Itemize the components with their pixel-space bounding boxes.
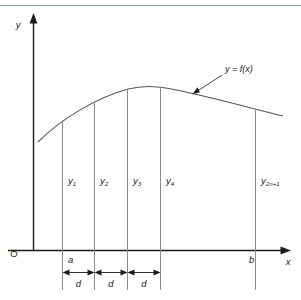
curve-leader-arrowhead <box>193 87 200 94</box>
curve-leader-line <box>196 75 222 92</box>
dimension-arrowhead-d2-right <box>121 270 128 276</box>
ordinate-label-y1: y1 <box>67 175 76 187</box>
ordinate-label-y2n1-sub: 2n+1 <box>265 180 280 187</box>
dimension-label-d3: d <box>141 278 147 289</box>
curve-equation-label: y = f(x) <box>224 64 253 74</box>
ordinate-label-y2: y2 <box>99 175 109 187</box>
x-tick-label-b: b <box>249 254 254 265</box>
dimension-arrowhead-d1-right <box>88 270 95 276</box>
dimension-label-d1: d <box>76 278 82 289</box>
x-tick-label-a: a <box>68 254 73 265</box>
dimension-label-d2: d <box>108 278 114 289</box>
y-axis-label: y <box>15 19 22 30</box>
ordinate-labels-group: y1 y2 y3 y4 y2n+1 <box>67 175 280 187</box>
ordinate-label-y4-sub: 4 <box>171 180 175 187</box>
origin-label: O <box>10 248 17 259</box>
ordinate-label-y2-sub: 2 <box>104 180 109 187</box>
dimension-arrows-group: d d d <box>63 270 161 289</box>
ordinate-label-y3-sub: 3 <box>138 180 142 187</box>
dimension-arrowhead-d1-left <box>63 270 70 276</box>
curve-callout: y = f(x) <box>193 64 253 94</box>
dimension-arrowhead-d3-right <box>154 270 161 276</box>
dimension-arrowhead-d3-left <box>128 270 135 276</box>
dimension-arrowhead-d2-left <box>95 270 102 276</box>
x-axis-arrowhead <box>281 246 292 254</box>
ordinate-label-y4: y4 <box>165 175 175 187</box>
ordinate-label-y2n1: y2n+1 <box>260 175 280 187</box>
ordinate-label-y1-sub: 1 <box>73 180 76 187</box>
figure-canvas: y x O y = f(x) y1 y2 y3 <box>0 0 301 300</box>
x-axis-label: x <box>285 256 292 267</box>
ordinate-label-y3: y3 <box>132 175 142 187</box>
ordinate-lines-group <box>63 87 256 291</box>
axes-group <box>8 13 291 255</box>
y-axis-arrowhead <box>30 13 38 24</box>
